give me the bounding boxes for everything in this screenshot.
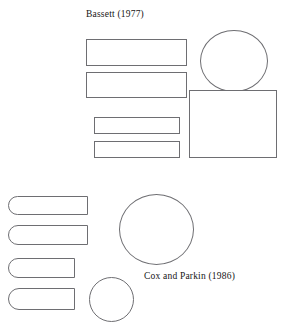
bassett-bar-4 <box>94 141 180 158</box>
bassett-circle <box>200 30 268 92</box>
cox-circle-large <box>119 194 194 265</box>
caption-bassett: Bassett (1977) <box>86 9 144 20</box>
cox-capsule-2 <box>8 225 88 245</box>
cox-capsule-3 <box>8 258 75 278</box>
figure-canvas: Bassett (1977) Cox and Parkin (1986) <box>0 0 292 330</box>
bassett-square <box>189 90 277 158</box>
cox-capsule-4 <box>8 288 75 310</box>
cox-circle-small <box>89 277 134 322</box>
bassett-bar-2 <box>86 72 187 98</box>
bassett-bar-1 <box>86 39 187 66</box>
bassett-bar-3 <box>94 117 180 134</box>
caption-cox-and-parkin: Cox and Parkin (1986) <box>144 271 235 282</box>
cox-capsule-1 <box>8 196 88 215</box>
